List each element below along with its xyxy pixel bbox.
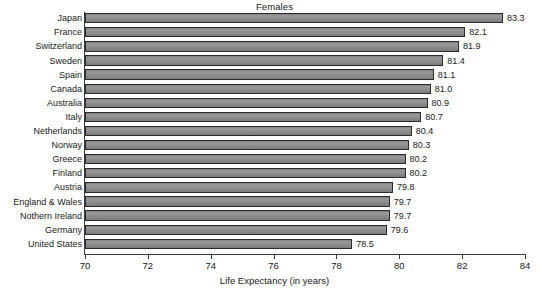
chart-title: Females [0,1,549,12]
x-tick-mark [525,255,526,259]
category-label: Germany [0,226,82,235]
bar-value-label: 80.2 [410,169,428,178]
x-axis-title: Life Expectancy (in years) [0,275,549,286]
bar-value-label: 80.9 [432,99,450,108]
category-label: Greece [0,155,82,164]
bar [85,196,390,206]
bar [85,154,406,164]
category-label: Finland [0,169,82,178]
plot-area: 83.382.181.981.481.181.080.980.780.480.3… [85,13,525,254]
category-label: France [0,28,82,37]
x-tick-label: 70 [80,261,91,271]
x-tick-label: 72 [143,261,154,271]
bar [85,182,393,192]
bar-value-label: 81.0 [435,85,453,94]
category-label: England & Wales [0,198,82,207]
x-tick-mark [211,255,212,259]
x-tick-mark [85,255,86,259]
bar-value-label: 82.1 [469,28,487,37]
bar-value-label: 80.2 [410,155,428,164]
bar-value-label: 83.3 [507,14,525,23]
x-tick-mark [148,255,149,259]
bar-value-label: 79.8 [397,183,415,192]
bar-chart-figure: Females JapanFranceSwitzerlandSwedenSpai… [0,0,549,291]
bar-value-label: 78.5 [356,240,374,249]
bar [85,225,387,235]
bar-value-label: 81.4 [447,57,465,66]
x-tick-mark [399,255,400,259]
x-tick-label: 80 [394,261,405,271]
x-tick-mark [274,255,275,259]
bar-value-label: 80.7 [425,113,443,122]
x-tick-label: 78 [331,261,342,271]
x-tick-label: 84 [520,261,531,271]
bar [85,13,503,23]
bar-value-label: 81.9 [463,42,481,51]
category-label: Italy [0,113,82,122]
bar [85,84,431,94]
x-tick-mark [462,255,463,259]
category-label: Switzerland [0,42,82,51]
x-tick-mark [336,255,337,259]
bar-value-label: 79.6 [391,226,409,235]
category-label: Australia [0,99,82,108]
category-label: Canada [0,85,82,94]
category-label: Nothern Ireland [0,212,82,221]
bar-value-label: 79.7 [394,198,412,207]
category-label: United States [0,240,82,249]
bar [85,168,406,178]
x-axis-line [84,254,526,255]
x-tick-label: 82 [457,261,468,271]
bar [85,126,412,136]
category-label: Austria [0,183,82,192]
category-label: Norway [0,141,82,150]
bar [85,27,465,37]
bar [85,69,434,79]
category-label: Spain [0,71,82,80]
bar [85,140,409,150]
bar [85,210,390,220]
bar [85,239,352,249]
bar-value-label: 81.1 [438,71,456,80]
bar [85,41,459,51]
x-tick-label: 76 [268,261,279,271]
bar-value-label: 80.3 [413,141,431,150]
bar [85,98,428,108]
category-label: Netherlands [0,127,82,136]
category-label: Sweden [0,57,82,66]
category-label: Japan [0,14,82,23]
bar [85,55,443,65]
x-tick-label: 74 [205,261,216,271]
bar [85,112,421,122]
bar-value-label: 79.7 [394,212,412,221]
y-axis-tick-labels: JapanFranceSwitzerlandSwedenSpainCanadaA… [0,13,82,254]
bar-value-label: 80.4 [416,127,434,136]
